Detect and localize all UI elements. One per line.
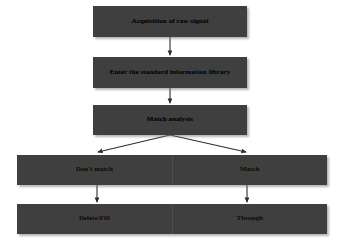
connector-match-analysis-to-dont-match bbox=[98, 135, 170, 152]
node-dont-match: Don't match bbox=[17, 155, 173, 185]
node-delete-fill-label: Delete/Fill bbox=[79, 214, 110, 223]
flowchart-diagram: Acquisition of raw signal Enter the stan… bbox=[0, 0, 342, 244]
node-dont-match-label: Don't match bbox=[76, 165, 113, 174]
node-delete-fill: Delete/Fill bbox=[17, 204, 173, 234]
node-acquisition-label: Acquisition of raw signal bbox=[128, 17, 213, 26]
node-standard-library-label: Enter the standard information library bbox=[106, 68, 235, 77]
row-match-decision: Don't match Match bbox=[17, 155, 327, 185]
node-standard-library: Enter the standard information library bbox=[93, 57, 247, 88]
node-match: Match bbox=[173, 155, 328, 185]
node-match-label: Match bbox=[240, 165, 259, 174]
node-through-label: Through bbox=[237, 214, 263, 223]
node-match-analysis: Match analysis bbox=[93, 105, 247, 135]
node-acquisition: Acquisition of raw signal bbox=[93, 6, 247, 37]
node-match-analysis-label: Match analysis bbox=[143, 115, 197, 124]
connector-match-analysis-to-match bbox=[170, 135, 246, 152]
row-outcome: Delete/Fill Through bbox=[17, 204, 327, 234]
node-through: Through bbox=[173, 204, 328, 234]
